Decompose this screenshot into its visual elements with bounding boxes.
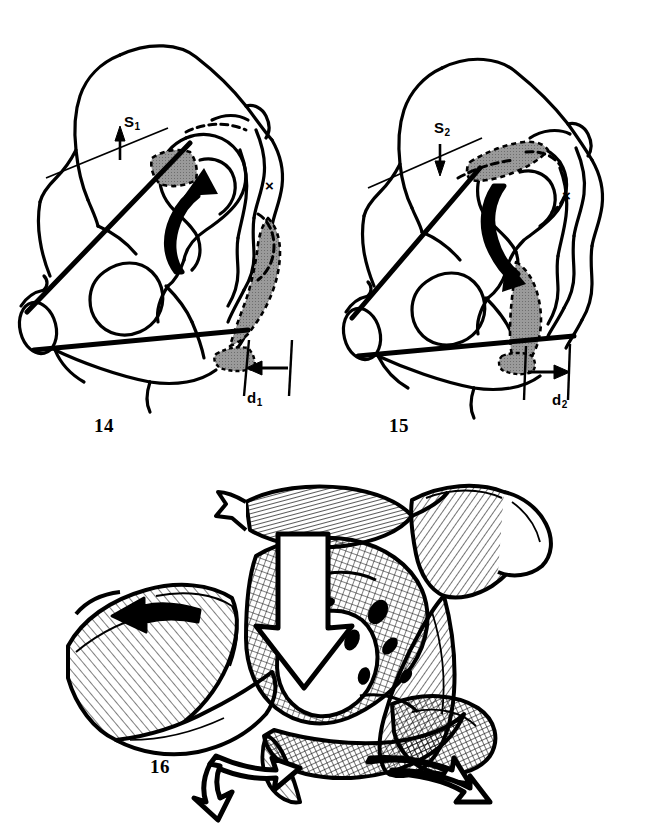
figure-16-illustration <box>60 440 620 827</box>
measurement-label-d2: d2 <box>552 392 567 407</box>
measurement-label-d1: d1 <box>247 390 262 405</box>
figure-14-illustration <box>0 10 340 430</box>
measurement-label-s2-sub: 2 <box>445 127 451 138</box>
reference-point-marker-fig15: × <box>562 188 571 203</box>
measurement-label-s2: S2 <box>434 120 450 135</box>
reference-point-marker-fig14: × <box>265 178 274 193</box>
figure-15-illustration <box>330 10 662 430</box>
measurement-label-d1-sub: 1 <box>257 397 263 408</box>
measurement-label-s1: S1 <box>124 114 140 129</box>
figure-plate: S1 d1 S2 d2 × × 14 15 16 <box>0 0 662 827</box>
figure-number-15: 15 <box>389 416 409 435</box>
measurement-label-s1-sub: 1 <box>135 121 141 132</box>
measurement-label-d2-base: d <box>552 391 561 408</box>
figure-number-14: 14 <box>94 416 114 435</box>
measurement-label-s1-base: S <box>124 113 134 130</box>
figure-number-16: 16 <box>150 757 170 776</box>
measurement-label-s2-base: S <box>434 119 444 136</box>
measurement-label-d1-base: d <box>247 389 256 406</box>
measurement-label-d2-sub: 2 <box>562 399 568 410</box>
